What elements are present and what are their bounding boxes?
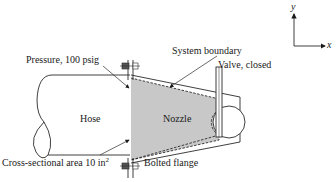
hose-label: Hose bbox=[80, 114, 101, 124]
valve-stem bbox=[216, 67, 222, 137]
cross-sectional-area-label: Cross-sectional area 10 in2 bbox=[2, 158, 109, 168]
area-text: Cross-sectional area 10 in bbox=[2, 157, 106, 168]
bolted-flange-top bbox=[120, 60, 140, 80]
area-exponent: 2 bbox=[106, 156, 110, 164]
x-axis-label: x bbox=[327, 40, 331, 50]
coordinate-axes bbox=[294, 14, 325, 46]
nozzle-control-volume-diagram: Pressure, 100 psig System boundary Valve… bbox=[0, 0, 336, 182]
valve-label: Valve, closed bbox=[218, 60, 271, 70]
bolted-flange-bottom bbox=[120, 158, 140, 178]
nozzle-label: Nozzle bbox=[163, 114, 191, 124]
y-axis-label: y bbox=[291, 2, 295, 12]
system-boundary-label: System boundary bbox=[172, 46, 242, 56]
diagram-graphics bbox=[0, 0, 336, 182]
pressure-label: Pressure, 100 psig bbox=[26, 55, 99, 65]
bolted-flange-label: Bolted flange bbox=[144, 158, 198, 168]
